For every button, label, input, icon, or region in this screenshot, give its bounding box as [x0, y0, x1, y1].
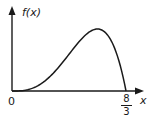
y-axis-arrowhead-icon [9, 6, 16, 15]
x-end-label-fraction: 8 3 [121, 94, 132, 117]
density-curve [12, 29, 126, 91]
y-axis-label: f(x) [22, 7, 41, 18]
fraction-numerator: 8 [121, 94, 132, 104]
x-axis-label: x [140, 95, 147, 106]
fraction-denominator: 3 [121, 107, 132, 117]
origin-label: 0 [8, 96, 15, 107]
